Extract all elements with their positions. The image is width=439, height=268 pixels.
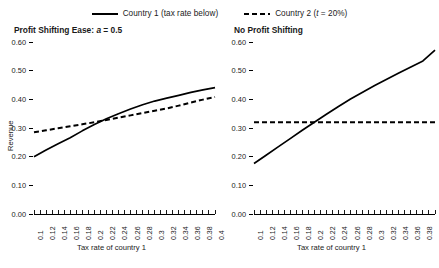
x-axis-tick-label: 0.14 bbox=[61, 226, 68, 240]
y-axis-tick-label: 0.40 bbox=[12, 95, 26, 104]
x-axis-tick-label: 0.12 bbox=[49, 226, 56, 240]
x-axis-tick-label: 0.1 bbox=[257, 230, 264, 240]
x-axis-tick-label: 0.26 bbox=[354, 226, 361, 240]
legend-swatch-solid-line bbox=[92, 10, 118, 18]
x-axis-tick-label: 0.22 bbox=[109, 226, 116, 240]
y-axis-tick-label: 0.30 bbox=[232, 124, 246, 133]
x-axis-label-right: Tax rate of country 1 bbox=[222, 244, 439, 252]
y-axis-tick-label: 0.50 bbox=[232, 66, 246, 75]
x-axis-tick-label: 0.32 bbox=[170, 226, 177, 240]
x-axis-tick-label: 0.24 bbox=[341, 226, 348, 240]
chart-panels: Profit Shifting Ease: a = 0.5 Revenue 0.… bbox=[0, 24, 439, 268]
y-axis-tick-label: 0.50 bbox=[12, 66, 26, 75]
x-axis-tick-label: 0.38 bbox=[206, 226, 213, 240]
chart-legend: Country 1 (tax rate below) Country 2 (t … bbox=[0, 6, 439, 22]
x-axis-tick-label: 0.12 bbox=[269, 226, 276, 240]
x-axis-tick-labels-right: 0.10.120.140.160.180.20.220.240.260.280.… bbox=[222, 214, 439, 244]
x-axis-tick-label: 0.18 bbox=[305, 226, 312, 240]
series-line-country-1 bbox=[254, 50, 435, 164]
x-axis-tick-label: 0.2 bbox=[317, 230, 324, 240]
x-axis-tick-label: 0.36 bbox=[194, 226, 201, 240]
x-axis-tick-labels-left: 0.10.120.140.160.180.20.220.240.260.280.… bbox=[2, 214, 221, 244]
legend-swatch-dashed-line bbox=[244, 10, 270, 18]
y-axis-tick-label: 0.60 bbox=[12, 38, 26, 47]
legend-label-country-1: Country 1 (tax rate below) bbox=[123, 10, 219, 18]
series-line-country-1 bbox=[34, 88, 215, 157]
x-axis-tick-label: 0.18 bbox=[85, 226, 92, 240]
x-axis-tick-label: 0.34 bbox=[402, 226, 409, 240]
y-axis-tick-label: 0.20 bbox=[232, 152, 246, 161]
x-axis-tick-label: 0.34 bbox=[182, 226, 189, 240]
x-axis-tick-label: 0.28 bbox=[366, 226, 373, 240]
panel-profit-shifting-ease: Profit Shifting Ease: a = 0.5 Revenue 0.… bbox=[2, 24, 221, 268]
y-axis-tick-label: 0.20 bbox=[12, 152, 26, 161]
x-axis-tick-label: 0.22 bbox=[329, 226, 336, 240]
panel-no-profit-shifting: No Profit Shifting 0.000.100.200.300.400… bbox=[222, 24, 439, 268]
figure-revenue-vs-tax-rate: Country 1 (tax rate below) Country 2 (t … bbox=[0, 0, 439, 268]
y-axis-tick-label: 0.60 bbox=[232, 38, 246, 47]
y-axis-tick-label: 0.30 bbox=[12, 124, 26, 133]
y-axis-tick-label: 0.40 bbox=[232, 95, 246, 104]
y-axis-tick-label: 0.10 bbox=[12, 181, 26, 190]
legend-entry-country-2: Country 2 (t = 20%) bbox=[244, 10, 347, 18]
x-axis-tick-label: 0.2 bbox=[97, 230, 104, 240]
series-line-country-2 bbox=[34, 97, 215, 132]
x-axis-tick-label: 0.24 bbox=[121, 226, 128, 240]
panel-title-right: No Profit Shifting bbox=[234, 26, 303, 34]
x-axis-label-left: Tax rate of country 1 bbox=[2, 244, 221, 252]
x-axis-tick-label: 0.3 bbox=[378, 230, 385, 240]
x-axis-tick-label: 0.38 bbox=[426, 226, 433, 240]
x-axis-tick-label: 0.28 bbox=[146, 226, 153, 240]
x-axis-tick-label: 0.3 bbox=[158, 230, 165, 240]
x-axis-tick-label: 0.26 bbox=[134, 226, 141, 240]
x-axis-tick-label: 0.14 bbox=[281, 226, 288, 240]
y-axis-tick-label: 0.10 bbox=[232, 181, 246, 190]
x-axis-tick-label: 0.16 bbox=[73, 226, 80, 240]
x-axis-tick-label: 0.36 bbox=[414, 226, 421, 240]
legend-label-country-2: Country 2 (t = 20%) bbox=[275, 10, 347, 18]
x-axis-tick-label: 0.1 bbox=[37, 230, 44, 240]
x-axis-tick-label: 0.32 bbox=[390, 226, 397, 240]
x-axis-tick-label: 0.16 bbox=[293, 226, 300, 240]
panel-title-left: Profit Shifting Ease: a = 0.5 bbox=[14, 26, 122, 34]
legend-entry-country-1: Country 1 (tax rate below) bbox=[92, 10, 219, 18]
